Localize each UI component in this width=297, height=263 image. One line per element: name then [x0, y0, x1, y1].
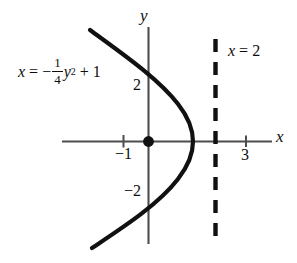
y-tick-label-2: 2: [133, 77, 141, 93]
origin-point: [143, 136, 154, 147]
fraction-numerator: 1: [52, 56, 63, 70]
curve-equation-label: x=−14y2+1: [18, 57, 101, 87]
y-axis-label: y: [140, 7, 148, 24]
curve-eq-sign: −: [42, 64, 51, 80]
fraction-denominator: 4: [52, 73, 63, 87]
graph-canvas: [0, 0, 297, 263]
x-axis-label: x: [276, 128, 284, 145]
line-eq-variable: x: [228, 42, 235, 59]
curve-eq-constant: 1: [93, 64, 101, 80]
line-eq-value: 2: [252, 42, 260, 59]
curve-eq-y-variable: y: [64, 64, 71, 80]
curve-eq-variable: x: [18, 64, 25, 80]
x-tick-label-minus1: −1: [115, 146, 132, 162]
parabola-curve: [90, 30, 193, 248]
y-tick-label-minus2: −2: [124, 183, 141, 199]
curve-eq-plus: +: [80, 64, 89, 80]
curve-eq-fraction: 14: [52, 56, 63, 86]
dashed-line-equation-label: x=2: [228, 43, 260, 59]
line-eq-equals: =: [239, 42, 248, 59]
x-tick-label-3: 3: [241, 147, 249, 163]
curve-eq-equals: =: [29, 64, 38, 80]
